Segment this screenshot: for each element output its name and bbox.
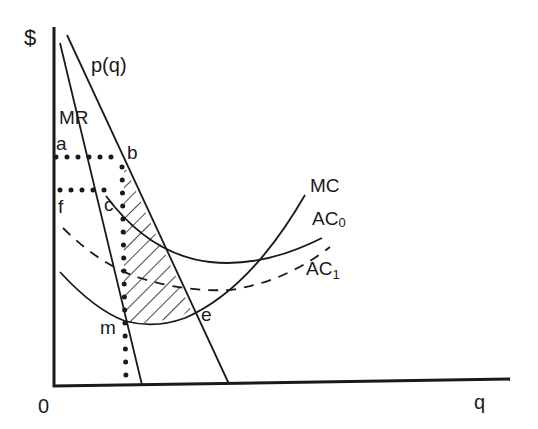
point-f-label: f bbox=[58, 196, 64, 217]
ac1-label: AC1 bbox=[306, 258, 340, 282]
point-e-label: e bbox=[201, 304, 212, 325]
origin-label: 0 bbox=[38, 395, 49, 417]
mc-label: MC bbox=[310, 175, 340, 196]
point-c-label: c bbox=[104, 194, 114, 215]
hatched-region bbox=[110, 150, 210, 330]
demand-curve bbox=[67, 35, 229, 384]
point-a-label: a bbox=[56, 133, 67, 154]
point-b-label: b bbox=[127, 142, 138, 163]
ac0-label: AC0 bbox=[312, 208, 346, 230]
point-m-label: m bbox=[100, 317, 116, 338]
x-axis-label: q bbox=[474, 391, 485, 413]
y-axis-label: $ bbox=[24, 25, 36, 50]
mr-label: MR bbox=[59, 107, 89, 128]
x-axis bbox=[53, 379, 510, 386]
monopoly-diagram: $ q 0 p(q) MR MC AC0 AC1 a b c f m e bbox=[0, 0, 538, 429]
demand-label: p(q) bbox=[91, 54, 127, 76]
